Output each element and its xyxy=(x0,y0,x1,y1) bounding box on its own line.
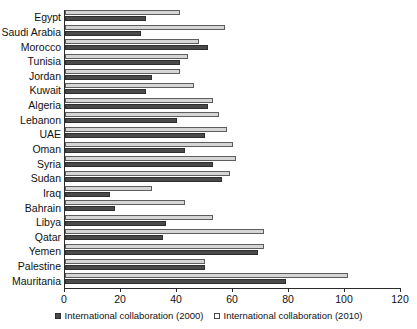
bar-international-collaboration-2000 xyxy=(65,104,208,109)
chart-category-row: Iraq xyxy=(65,186,400,201)
category-label: Iraq xyxy=(43,187,61,198)
x-axis-tick xyxy=(64,288,65,292)
bar-international-collaboration-2010 xyxy=(65,39,199,44)
category-label: Saudi Arabia xyxy=(1,26,61,37)
chart-category-row: Syria xyxy=(65,156,400,171)
bar-international-collaboration-2000 xyxy=(65,45,208,50)
chart-category-row: Kuwait xyxy=(65,83,400,98)
bar-international-collaboration-2010 xyxy=(65,98,213,103)
category-label: Qatar xyxy=(35,231,61,242)
category-label: Kuwait xyxy=(29,85,61,96)
chart-category-row: Jordan xyxy=(65,69,400,84)
bar-international-collaboration-2010 xyxy=(65,200,185,205)
bar-international-collaboration-2000 xyxy=(65,250,258,255)
category-label: Libya xyxy=(36,217,61,228)
bar-international-collaboration-2000 xyxy=(65,60,180,65)
bar-international-collaboration-2010 xyxy=(65,156,236,161)
bar-international-collaboration-2000 xyxy=(65,118,177,123)
legend-item: International collaboration (2010) xyxy=(214,310,363,321)
chart-category-row: Palestine xyxy=(65,259,400,274)
bar-international-collaboration-2000 xyxy=(65,162,213,167)
bar-international-collaboration-2000 xyxy=(65,177,222,182)
x-axis-tick xyxy=(400,288,401,292)
bar-international-collaboration-2000 xyxy=(65,75,152,80)
bar-international-collaboration-2000 xyxy=(65,265,205,270)
category-label: Yemen xyxy=(29,246,61,257)
chart-category-row: Qatar xyxy=(65,229,400,244)
chart-category-row: Tunisia xyxy=(65,54,400,69)
chart-category-row: Egypt xyxy=(65,10,400,25)
chart-category-row: Libya xyxy=(65,215,400,230)
bar-international-collaboration-2000 xyxy=(65,148,185,153)
category-label: Bahrain xyxy=(25,202,61,213)
category-label: Egypt xyxy=(34,12,61,23)
category-label: Sudan xyxy=(31,173,61,184)
chart-category-row: UAE xyxy=(65,127,400,142)
open-square-icon xyxy=(214,313,220,319)
bar-international-collaboration-2000 xyxy=(65,192,110,197)
x-axis-tick-label: 100 xyxy=(335,293,353,305)
x-axis-tick-label: 80 xyxy=(282,293,294,305)
bar-international-collaboration-2000 xyxy=(65,16,146,21)
chart-category-row: Sudan xyxy=(65,171,400,186)
bar-international-collaboration-2010 xyxy=(65,142,233,147)
bar-international-collaboration-2010 xyxy=(65,83,194,88)
category-label: Algeria xyxy=(28,100,61,111)
bar-international-collaboration-2000 xyxy=(65,89,146,94)
x-axis-tick xyxy=(120,288,121,292)
bar-international-collaboration-2010 xyxy=(65,127,227,132)
bar-international-collaboration-2010 xyxy=(65,229,264,234)
bar-international-collaboration-2010 xyxy=(65,244,264,249)
plot-area: EgyptSaudi ArabiaMoroccoTunisiaJordanKuw… xyxy=(64,10,400,288)
category-label: Tunisia xyxy=(28,56,61,67)
bar-international-collaboration-2010 xyxy=(65,215,213,220)
bar-international-collaboration-2010 xyxy=(65,259,205,264)
chart-category-row: Morocco xyxy=(65,39,400,54)
bar-international-collaboration-2010 xyxy=(65,69,180,74)
bar-international-collaboration-2010 xyxy=(65,112,219,117)
bar-international-collaboration-2010 xyxy=(65,273,348,278)
category-label: Morocco xyxy=(21,41,61,52)
bar-international-collaboration-2000 xyxy=(65,279,286,284)
bar-international-collaboration-2010 xyxy=(65,54,188,59)
chart-category-row: Oman xyxy=(65,142,400,157)
category-label: UAE xyxy=(39,129,61,140)
category-label: Palestine xyxy=(18,261,61,272)
x-axis-tick-label: 60 xyxy=(226,293,238,305)
x-axis-tick-label: 40 xyxy=(170,293,182,305)
bar-international-collaboration-2000 xyxy=(65,235,163,240)
bar-international-collaboration-2000 xyxy=(65,206,115,211)
bar-international-collaboration-2000 xyxy=(65,133,205,138)
category-label: Jordan xyxy=(29,70,61,81)
legend-item: International collaboration (2000) xyxy=(55,310,204,321)
filled-square-icon xyxy=(55,313,61,319)
chart-category-row: Mauritania xyxy=(65,273,400,288)
category-label: Oman xyxy=(32,143,61,154)
category-label: Mauritania xyxy=(12,275,61,286)
x-axis-tick xyxy=(344,288,345,292)
x-axis-tick-label: 120 xyxy=(391,293,409,305)
chart-legend: International collaboration (2000)Intern… xyxy=(0,310,417,321)
chart-category-row: Bahrain xyxy=(65,200,400,215)
chart-category-row: Yemen xyxy=(65,244,400,259)
bar-international-collaboration-2000 xyxy=(65,221,166,226)
x-axis-tick xyxy=(176,288,177,292)
x-axis-tick-label: 0 xyxy=(61,293,67,305)
bar-international-collaboration-2010 xyxy=(65,186,152,191)
bar-international-collaboration-2010 xyxy=(65,25,225,30)
legend-label: International collaboration (2000) xyxy=(65,310,204,321)
bar-chart: EgyptSaudi ArabiaMoroccoTunisiaJordanKuw… xyxy=(0,0,417,329)
bar-international-collaboration-2010 xyxy=(65,10,180,15)
bar-international-collaboration-2010 xyxy=(65,171,230,176)
x-axis-tick-label: 20 xyxy=(114,293,126,305)
x-axis-tick xyxy=(288,288,289,292)
chart-category-row: Lebanon xyxy=(65,112,400,127)
category-label: Syria xyxy=(37,158,61,169)
x-axis-tick xyxy=(232,288,233,292)
chart-category-row: Algeria xyxy=(65,98,400,113)
bar-international-collaboration-2000 xyxy=(65,31,141,36)
chart-category-row: Saudi Arabia xyxy=(65,25,400,40)
legend-label: International collaboration (2010) xyxy=(224,310,363,321)
category-label: Lebanon xyxy=(20,114,61,125)
